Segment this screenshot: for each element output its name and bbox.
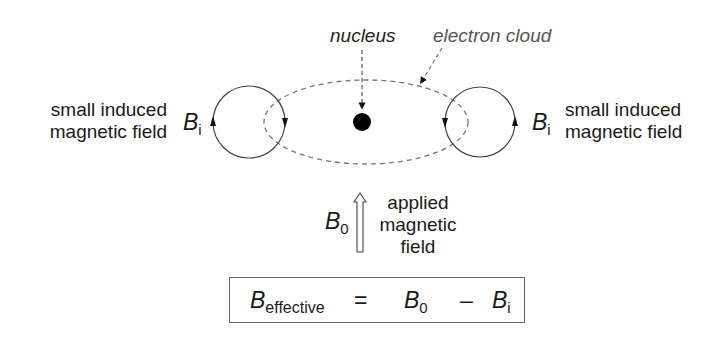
left-loop-arrow-down-icon bbox=[282, 118, 288, 128]
electron-cloud-label: electron cloud bbox=[433, 25, 551, 47]
effective-field-equation-box: Beffective = B0 – Bi bbox=[229, 277, 525, 323]
equation-minus: – bbox=[460, 287, 473, 313]
nucleus-label: nucleus bbox=[330, 25, 396, 47]
left-induced-symbol: Bi bbox=[183, 109, 202, 143]
left-loop-arrow-up-icon bbox=[210, 116, 216, 126]
equation-lhs: Beffective bbox=[250, 287, 325, 321]
left-field-label: small induced magnetic field bbox=[34, 99, 167, 143]
right-field-label: small induced magnetic field bbox=[565, 99, 682, 143]
applied-field-label-line2: magnetic bbox=[373, 214, 463, 236]
equation-equals: = bbox=[354, 287, 367, 313]
applied-field-hollow-arrow-icon bbox=[354, 193, 366, 252]
right-field-label-line1: small induced bbox=[565, 99, 682, 121]
right-induced-symbol: Bi bbox=[532, 109, 551, 143]
left-field-label-line1: small induced bbox=[34, 99, 167, 121]
nucleus-dot bbox=[353, 113, 371, 131]
right-loop-arrow-up-icon bbox=[512, 116, 518, 126]
left-induced-field-loop bbox=[213, 86, 285, 158]
applied-field-label: applied magnetic field bbox=[373, 192, 463, 258]
applied-field-symbol: B0 bbox=[325, 208, 349, 242]
applied-field-label-line1: applied bbox=[373, 192, 463, 214]
right-field-label-line2: magnetic field bbox=[565, 121, 682, 143]
equation-term-applied: B0 bbox=[404, 287, 428, 321]
left-field-label-line2: magnetic field bbox=[34, 121, 167, 143]
right-induced-field-loop bbox=[445, 87, 515, 157]
electron-cloud-pointer-arrow bbox=[422, 48, 442, 81]
equation-term-induced: Bi bbox=[492, 287, 511, 321]
applied-field-label-line3: field bbox=[373, 236, 463, 258]
right-loop-arrow-down-icon bbox=[442, 118, 448, 128]
